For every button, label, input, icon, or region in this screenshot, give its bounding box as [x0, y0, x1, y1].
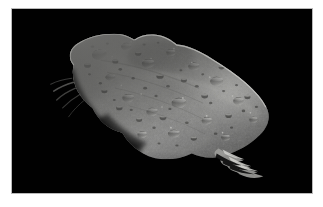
asteroid-render: [12, 9, 312, 193]
asteroid-body: [12, 9, 312, 193]
limb-striations-right: [215, 148, 264, 177]
asteroid-photograph: [11, 8, 313, 194]
asteroid-surface: [12, 9, 312, 193]
page-root: Asteroid 243 Ida photographed against bl…: [0, 0, 323, 207]
